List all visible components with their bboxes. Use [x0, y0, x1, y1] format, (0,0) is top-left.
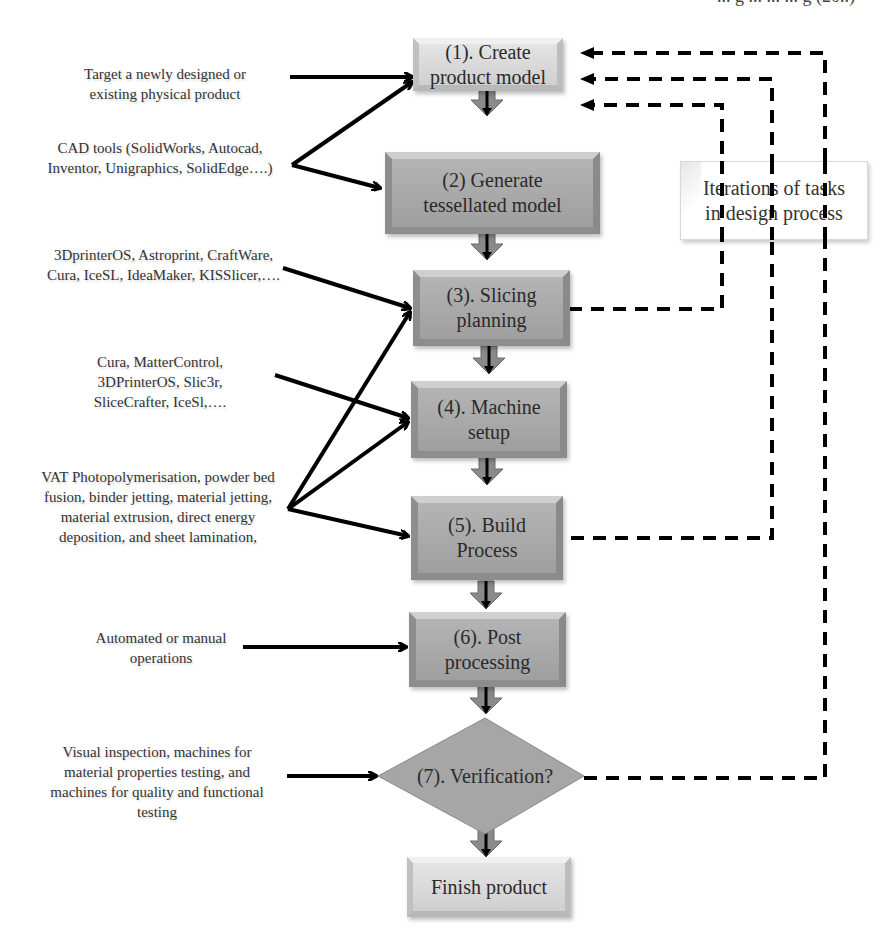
step-generate-tessellated-model: (2) Generate tessellated model — [385, 152, 600, 234]
step-create-product-model: (1). Create product model — [413, 38, 563, 91]
input-verification-methods: Visual inspection, machines for material… — [46, 742, 268, 822]
input-cad-tools: CAD tools (SolidWorks, Autocad, Inventor… — [40, 138, 280, 178]
step-finish-product: Finish product — [407, 857, 571, 917]
step-slicing-planning: (3). Slicing planning — [413, 270, 570, 346]
step-label: (5). Build Process — [432, 513, 542, 563]
step-label: (4). Machine setup — [429, 395, 549, 445]
step-label: (2) Generate tessellated model — [408, 168, 578, 218]
step-label: (6). Post processing — [428, 625, 548, 675]
step-label: (7). Verification? — [417, 764, 553, 789]
iterations-note-text: Iterations of tasks in design process — [694, 176, 854, 226]
input-printer-host-software: Cura, MatterControl, 3DPrinterOS, Slic3r… — [80, 352, 240, 412]
iterations-note: Iterations of tasks in design process — [680, 161, 868, 240]
step-post-processing: (6). Post processing — [409, 612, 566, 687]
input-slicer-software: 3DprinterOS, Astroprint, CraftWare, Cura… — [36, 245, 291, 285]
step-verification: (7). Verification? — [400, 760, 570, 792]
step-label: (3). Slicing planning — [432, 283, 552, 333]
step-build-process: (5). Build Process — [411, 496, 563, 580]
step-label: (1). Create product model — [428, 40, 548, 90]
input-target-product: Target a newly designed or existing phys… — [72, 64, 258, 104]
step-label: Finish product — [431, 875, 547, 900]
input-post-operations: Automated or manual operations — [86, 628, 236, 668]
input-am-processes: VAT Photopolymerisation, powder bed fusi… — [38, 467, 278, 547]
step-machine-setup: (4). Machine setup — [411, 381, 567, 458]
